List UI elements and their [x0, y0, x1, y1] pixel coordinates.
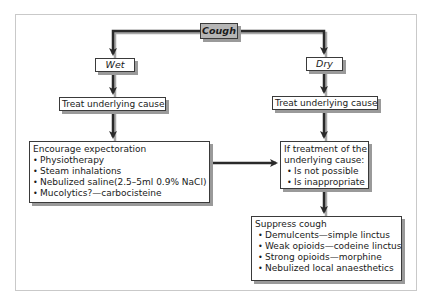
- suppress-heading: Suppress cough: [255, 219, 398, 230]
- node-suppress-cough: Suppress cough •Demulcents—simple linctu…: [251, 216, 402, 281]
- wet-label: Wet: [106, 59, 125, 70]
- node-dry: Dry: [306, 57, 343, 71]
- root-label: Cough: [202, 25, 236, 36]
- bullet-icon: •: [258, 241, 265, 252]
- bullet-icon: •: [33, 177, 40, 188]
- expectoration-item: •Mucolytics?—carbocisteine: [33, 188, 206, 199]
- bullet-icon: •: [33, 166, 40, 177]
- bullet-icon: •: [258, 230, 265, 241]
- expectoration-item: •Steam inhalations: [33, 166, 206, 177]
- node-dry-treat-cause: Treat underlying cause: [272, 96, 378, 110]
- suppress-item: •Strong opioids—morphine: [255, 252, 398, 263]
- condition-item: •Is inappropriate: [284, 177, 365, 188]
- bullet-icon: •: [287, 177, 294, 188]
- dry-label: Dry: [316, 58, 333, 69]
- bullet-icon: •: [287, 166, 294, 177]
- bullet-icon: •: [33, 188, 40, 199]
- expectoration-item: •Physiotherapy: [33, 155, 206, 166]
- bullet-icon: •: [33, 155, 40, 166]
- root-node-cough: Cough: [200, 23, 238, 39]
- node-wet: Wet: [95, 58, 135, 72]
- expectoration-item: •Nebulized saline(2.5–5ml 0.9% NaCl): [33, 177, 206, 188]
- condition-heading-1: If treatment of the: [284, 144, 365, 155]
- suppress-item: •Nebulized local anaesthetics: [255, 263, 398, 274]
- wet-treat-label: Treat underlying cause: [62, 99, 164, 109]
- suppress-item: •Weak opioids—codeine linctus: [255, 241, 398, 252]
- suppress-item: •Demulcents—simple linctus: [255, 230, 398, 241]
- condition-item: •Is not possible: [284, 166, 365, 177]
- node-wet-treat-cause: Treat underlying cause: [59, 97, 166, 111]
- expectoration-heading: Encourage expectoration: [33, 144, 206, 155]
- node-if-treatment: If treatment of the underlying cause: •I…: [280, 141, 369, 189]
- dry-treat-label: Treat underlying cause: [275, 98, 377, 108]
- node-encourage-expectoration: Encourage expectoration •Physiotherapy •…: [29, 141, 210, 203]
- bullet-icon: •: [258, 263, 265, 274]
- condition-heading-2: underlying cause:: [284, 155, 365, 166]
- bullet-icon: •: [258, 252, 265, 263]
